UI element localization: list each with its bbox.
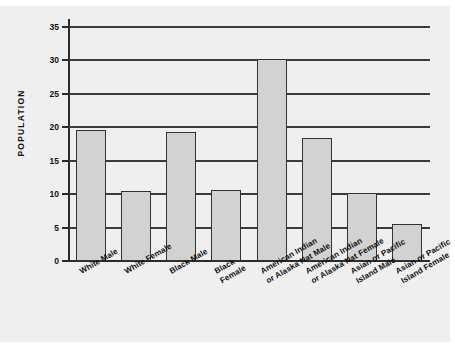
y-tick-label: 15 [50, 156, 59, 166]
y-axis-title: POPULATION [16, 68, 26, 178]
y-tick-label: 30 [50, 55, 59, 65]
bar [121, 191, 151, 261]
bar [166, 132, 196, 261]
y-tick-label: 20 [50, 122, 59, 132]
y-tick-label: 0 [54, 256, 59, 266]
bar [211, 190, 241, 261]
y-tick-label: 25 [50, 89, 59, 99]
y-tick-label: 5 [54, 223, 59, 233]
y-tick-label: 35 [50, 22, 59, 32]
y-tick-label: 10 [50, 189, 59, 199]
bar [76, 130, 106, 261]
x-axis-category-labels: White MaleWhite FemaleBlack MaleBlack Fe… [68, 262, 450, 349]
bar [257, 59, 287, 261]
